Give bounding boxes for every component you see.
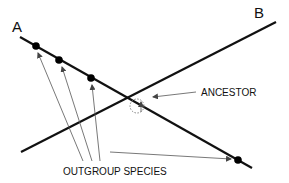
label-a: A xyxy=(12,18,22,35)
arrow-to-species-3 xyxy=(92,85,100,161)
line-a xyxy=(20,37,252,168)
label-ancestor: ANCESTOR xyxy=(201,87,256,98)
diagram-canvas: A B ANCESTOR OUTGROUP SPECIES xyxy=(0,0,289,183)
arrow-to-species-4 xyxy=(110,152,231,159)
outgroup-species-dot-2 xyxy=(55,56,63,64)
label-b: B xyxy=(254,4,264,21)
outgroup-species-dot-4 xyxy=(234,156,242,164)
label-outgroup-species: OUTGROUP SPECIES xyxy=(63,166,167,177)
ancestor-label-arrow xyxy=(153,92,196,97)
outgroup-species-dot-1 xyxy=(32,42,40,50)
outgroup-species-dot-3 xyxy=(87,74,95,82)
